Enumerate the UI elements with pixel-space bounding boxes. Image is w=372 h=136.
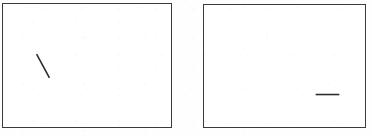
figure-canvas [0,0,372,136]
diagonal-line-segment [37,54,50,78]
left-panel-drawing-surface [3,4,171,127]
left-panel[interactable] [2,3,172,128]
right-panel[interactable] [203,4,366,128]
right-panel-drawing-surface [204,5,365,127]
